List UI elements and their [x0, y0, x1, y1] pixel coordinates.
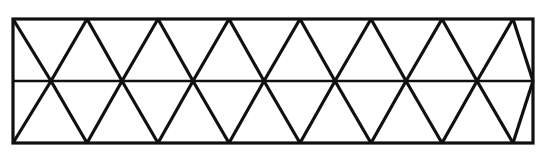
figure-canvas — [0, 0, 544, 153]
diagram-background — [0, 0, 544, 153]
triangular-lattice-diagram — [0, 0, 544, 153]
